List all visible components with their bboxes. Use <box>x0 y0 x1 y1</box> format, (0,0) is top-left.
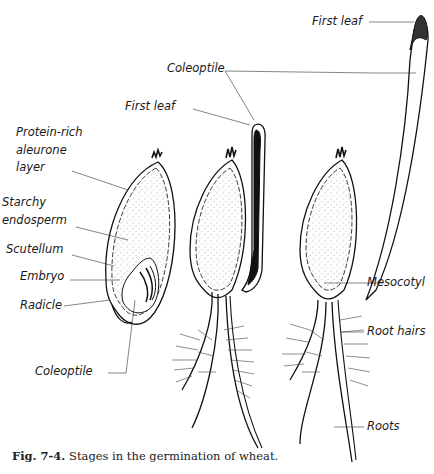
label-coleoptile-early: Coleoptile <box>167 63 225 75</box>
caption-text: Stages in the germination of wheat. <box>65 449 278 463</box>
label-embryo: Embryo <box>20 271 64 283</box>
older-seedling-drawing <box>282 16 428 462</box>
label-first-leaf-older: First leaf <box>312 16 362 28</box>
wheat-germination-figure: Protein-rich aleurone layer Starchy endo… <box>0 0 434 474</box>
label-scutellum: Scutellum <box>6 244 63 256</box>
label-radicle: Radicle <box>20 300 62 312</box>
label-layer: layer <box>16 162 45 174</box>
label-root-hairs: Root hairs <box>367 326 425 338</box>
early-seedling-drawing <box>172 124 265 448</box>
label-first-leaf-early: First leaf <box>125 101 175 113</box>
caption-number: Fig. 7-4. <box>12 449 65 463</box>
label-mesocotyl: Mesocotyl <box>367 277 425 289</box>
label-endosperm: endosperm <box>2 215 67 227</box>
label-coleoptile-seed: Coleoptile <box>35 366 93 378</box>
label-aleurone: aleurone <box>16 145 67 157</box>
label-starchy: Starchy <box>2 197 46 209</box>
label-protein-rich: Protein-rich <box>16 127 82 139</box>
label-roots: Roots <box>367 421 400 433</box>
figure-caption: Fig. 7-4. Stages in the germination of w… <box>12 449 278 463</box>
